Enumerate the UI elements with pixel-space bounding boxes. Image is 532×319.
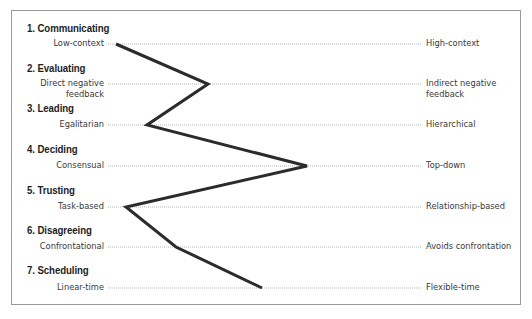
scale-dotted-lines bbox=[108, 44, 422, 288]
scale-lines-and-profile bbox=[0, 0, 532, 319]
